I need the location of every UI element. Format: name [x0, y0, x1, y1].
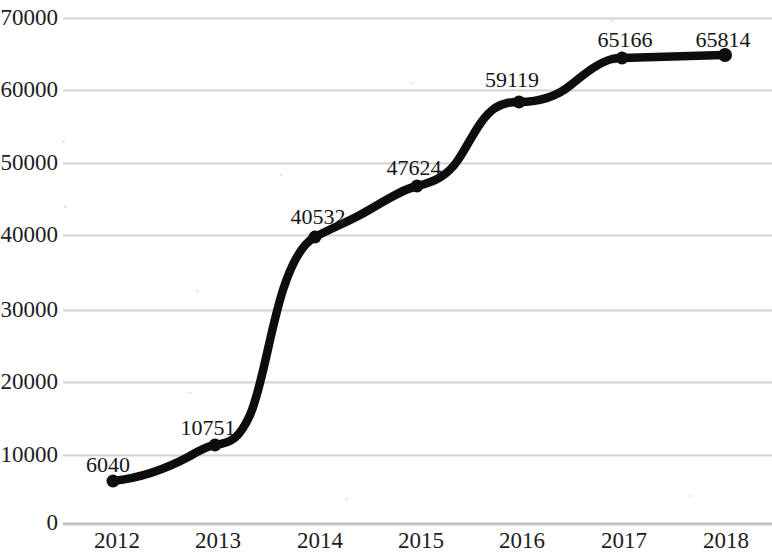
x-tick-label: 2012 — [94, 528, 140, 554]
data-point-marker — [309, 231, 322, 244]
x-tick-label: 2018 — [703, 528, 749, 554]
data-label: 59119 — [485, 67, 539, 93]
x-tick-label: 2013 — [195, 528, 241, 554]
data-label: 40532 — [291, 204, 346, 230]
data-label: 6040 — [86, 452, 130, 478]
data-point-marker — [411, 180, 424, 193]
data-point-marker — [616, 52, 629, 65]
line-chart: 70000 60000 50000 40000 30000 20000 1000… — [0, 0, 772, 554]
x-tick-label: 2017 — [601, 528, 647, 554]
data-point-marker — [513, 96, 526, 109]
data-label: 65166 — [598, 27, 653, 53]
x-tick-label: 2014 — [297, 528, 343, 554]
data-label: 10751 — [181, 415, 236, 441]
x-tick-label: 2015 — [398, 528, 444, 554]
data-label: 47624 — [387, 155, 442, 181]
data-label: 65814 — [696, 27, 751, 53]
x-tick-label: 2016 — [499, 528, 545, 554]
